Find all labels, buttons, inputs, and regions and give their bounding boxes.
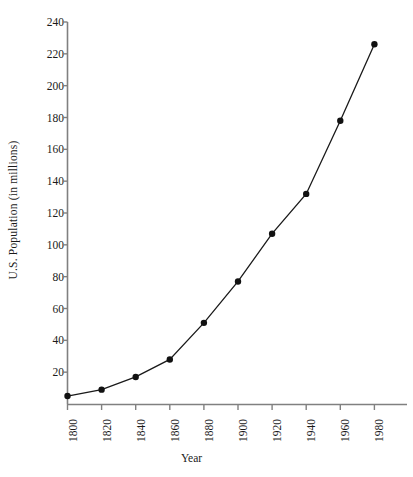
data-point [235, 278, 241, 284]
x-axis-tick-label: 1860 [169, 419, 181, 442]
data-point [371, 41, 377, 47]
x-axis-tick-label: 1940 [305, 419, 317, 442]
x-axis-tick-label: 1820 [101, 419, 113, 442]
x-axis-tick-label: 1980 [373, 419, 385, 442]
population-line-chart: U.S. Population (in millions) 2040608010… [0, 0, 413, 477]
data-point [201, 320, 207, 326]
data-point [167, 356, 173, 362]
data-point [269, 230, 275, 236]
x-axis-tick-label: 1960 [339, 419, 351, 442]
x-axis-tick-label: 1920 [271, 419, 283, 442]
plot-area [0, 0, 413, 477]
data-point-markers [64, 41, 377, 399]
data-point [303, 191, 309, 197]
x-axis-tick-label: 1840 [135, 419, 147, 442]
x-axis-tick-label: 1800 [67, 419, 79, 442]
data-point [337, 117, 343, 123]
axis-lines [68, 22, 408, 405]
data-point [98, 386, 104, 392]
data-point [133, 374, 139, 380]
data-line [68, 44, 375, 396]
x-axis-title-text: Year [181, 452, 202, 464]
x-axis-tick-label: 1880 [203, 419, 215, 442]
x-axis-title: Year [0, 452, 413, 464]
x-axis-tick-label: 1900 [237, 419, 249, 442]
data-point [64, 393, 70, 399]
